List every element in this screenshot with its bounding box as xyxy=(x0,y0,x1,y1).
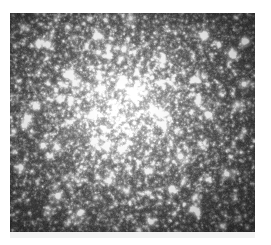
plate-scan-band xyxy=(10,232,255,238)
figure-page xyxy=(0,0,271,245)
star-field-canvas xyxy=(10,13,255,232)
star-field-image xyxy=(10,13,255,232)
